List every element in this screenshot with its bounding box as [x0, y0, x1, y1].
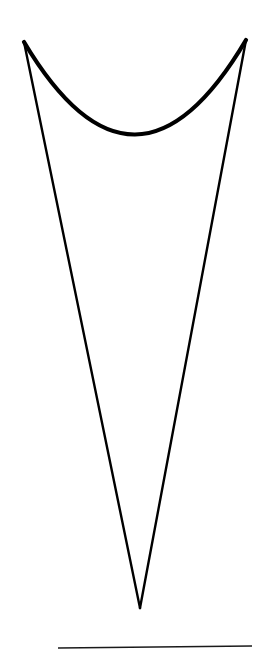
figure-background — [0, 0, 253, 666]
line-drawing-figure — [0, 0, 253, 666]
figure-canvas — [0, 0, 253, 666]
